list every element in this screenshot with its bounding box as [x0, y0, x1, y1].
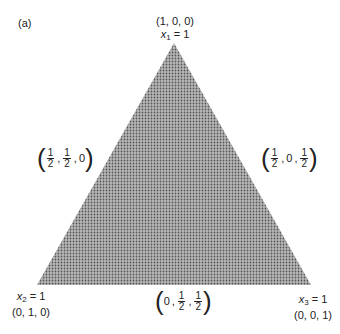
- vertex-bottom-right-label: x3 = 1 (0, 0, 1): [286, 293, 340, 322]
- midpoint-right-label: ( 12 , 0 , 12 ): [261, 145, 318, 171]
- midpoint-left-label: ( 12 , 12 , 0 ): [37, 145, 94, 171]
- vertex-top-label: (1, 0, 0) x1 = 1: [150, 15, 200, 44]
- vertex-bottom-left-label: x2 = 1 (0, 1, 0): [4, 290, 58, 319]
- panel-label: (a): [18, 17, 31, 30]
- midpoint-bottom-label: ( 0 , 12 , 12 ): [155, 288, 212, 314]
